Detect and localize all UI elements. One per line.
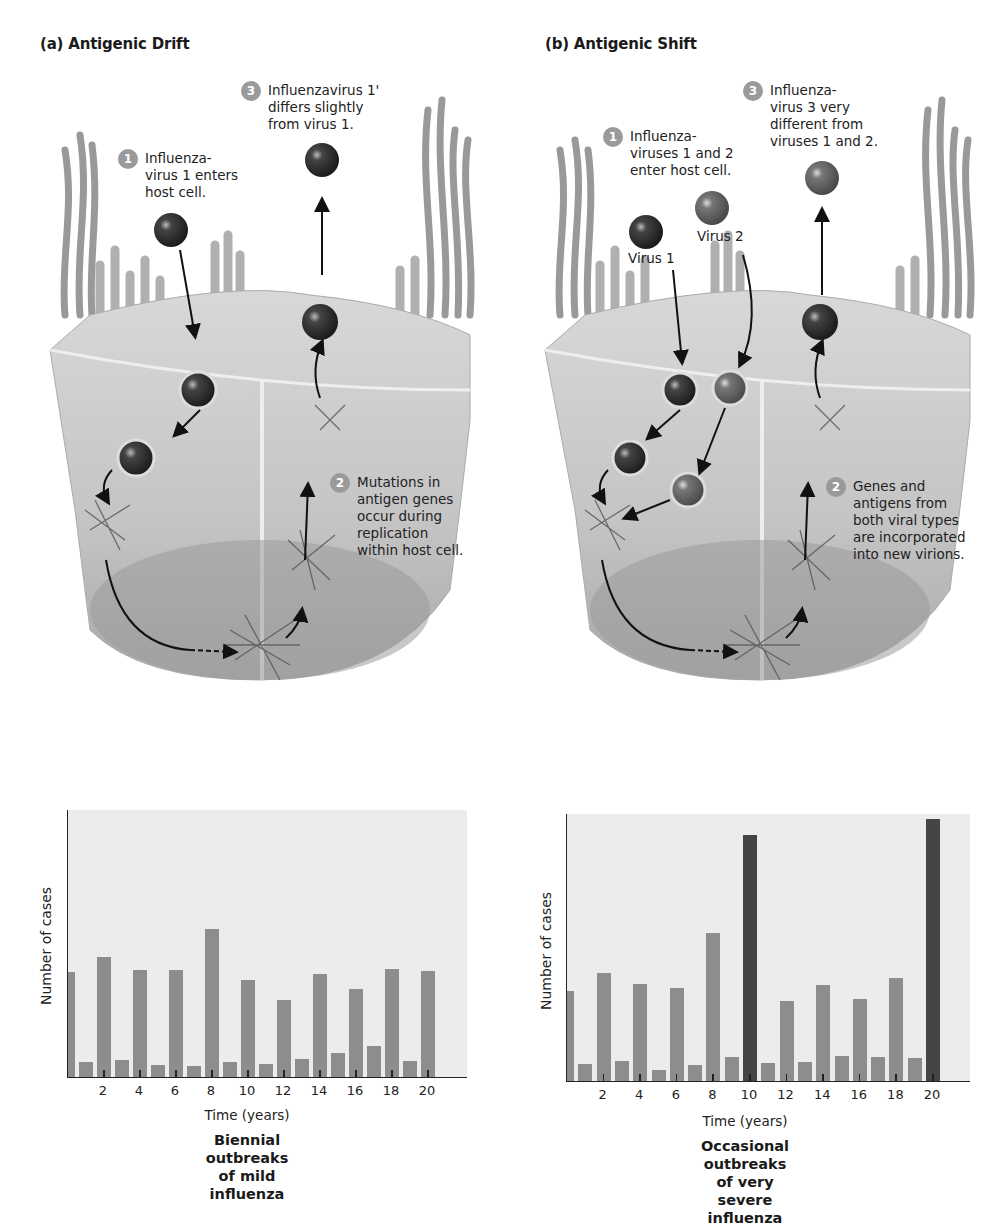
x-tick-label: 16 [851, 1087, 868, 1102]
bar-year-14 [313, 974, 327, 1077]
bar-year-6 [169, 970, 183, 1077]
bar-year-1 [79, 1062, 93, 1077]
x-tick-label: 2 [598, 1087, 606, 1102]
chart-caption: Occasional outbreaks of very severe infl… [701, 1137, 789, 1227]
x-tick [822, 1074, 824, 1081]
x-tick-label: 2 [99, 1083, 107, 1098]
bar-year-9 [725, 1057, 739, 1081]
step-a-3: 3 Influenzavirus 1' differs slightly fro… [268, 82, 379, 133]
x-tick-label: 10 [239, 1083, 256, 1098]
bar-year-10 [743, 835, 757, 1081]
x-tick [139, 1070, 141, 1077]
x-tick [712, 1074, 714, 1081]
bar-year-11 [259, 1064, 273, 1077]
plot-area [566, 814, 970, 1082]
bar-year-8 [205, 929, 219, 1077]
bar-year-18 [385, 969, 399, 1077]
x-tick [283, 1070, 285, 1077]
x-tick [427, 1070, 429, 1077]
x-tick-label: 6 [672, 1087, 680, 1102]
bar-year-16 [349, 989, 363, 1077]
bar-year-5 [652, 1070, 666, 1081]
panel-a-title: (a) Antigenic Drift [40, 35, 189, 53]
bar-year-15 [331, 1053, 345, 1077]
x-axis-label: Time (years) [204, 1107, 289, 1123]
virus-2-label: Virus 2 [697, 228, 744, 244]
bar-year-17 [367, 1046, 381, 1077]
bar-year-6 [670, 988, 684, 1081]
bar-year-13 [295, 1059, 309, 1077]
x-tick [247, 1070, 249, 1077]
step-b-2: 2 Genes and antigens from both viral typ… [853, 478, 965, 563]
x-tick [895, 1074, 897, 1081]
x-tick [391, 1070, 393, 1077]
bar-year-19 [403, 1061, 417, 1077]
x-tick-label: 16 [347, 1083, 364, 1098]
x-tick-label: 20 [924, 1087, 941, 1102]
x-axis-label: Time (years) [702, 1113, 787, 1129]
bar-year-7 [187, 1066, 201, 1077]
bar-year-0 [68, 972, 75, 1077]
bar-year-18 [889, 978, 903, 1081]
step-badge: 1 [118, 149, 138, 169]
y-axis-label: Number of cases [38, 887, 54, 1005]
x-tick-label: 6 [171, 1083, 179, 1098]
bar-year-3 [615, 1061, 629, 1081]
x-tick [603, 1074, 605, 1081]
bar-year-8 [706, 933, 720, 1081]
bar-year-14 [816, 985, 830, 1081]
bar-year-2 [597, 973, 611, 1081]
x-tick [639, 1074, 641, 1081]
bar-year-4 [133, 970, 147, 1077]
bar-year-4 [633, 984, 647, 1081]
x-tick [319, 1070, 321, 1077]
bar-year-0 [567, 991, 574, 1081]
antigenic-shift-cell-illustration [530, 90, 1000, 770]
bar-year-11 [761, 1063, 775, 1081]
step-badge: 2 [330, 473, 350, 493]
x-tick-label: 4 [135, 1083, 143, 1098]
plot-area [67, 810, 467, 1078]
panel-b-title: (b) Antigenic Shift [545, 35, 697, 53]
x-tick-label: 14 [311, 1083, 328, 1098]
y-axis-label: Number of cases [538, 892, 554, 1010]
bar-year-12 [277, 1000, 291, 1077]
bar-year-15 [835, 1056, 849, 1081]
virus-1-label: Virus 1 [628, 250, 675, 266]
bar-year-10 [241, 980, 255, 1077]
bar-year-1 [578, 1064, 592, 1081]
x-tick-label: 18 [383, 1083, 400, 1098]
bar-year-5 [151, 1065, 165, 1077]
step-a-1: 1 Influenza- virus 1 enters host cell. [145, 150, 238, 201]
step-b-3: 3 Influenza- virus 3 very different from… [770, 82, 878, 150]
x-tick-label: 4 [635, 1087, 643, 1102]
x-tick-label: 14 [814, 1087, 831, 1102]
x-tick [103, 1070, 105, 1077]
x-tick [859, 1074, 861, 1081]
bar-year-13 [798, 1062, 812, 1081]
step-badge: 3 [743, 81, 763, 101]
bar-year-3 [115, 1060, 129, 1077]
step-badge: 2 [826, 477, 846, 497]
x-tick-label: 18 [887, 1087, 904, 1102]
step-a-2: 2 Mutations in antigen genes occur durin… [357, 474, 463, 559]
antigenic-drift-cell-illustration [30, 90, 500, 770]
bar-year-20 [926, 819, 940, 1081]
x-tick [211, 1070, 213, 1077]
x-tick [932, 1074, 934, 1081]
step-b-1: 1 Influenza- viruses 1 and 2 enter host … [630, 128, 734, 179]
x-tick-label: 12 [275, 1083, 292, 1098]
bar-year-19 [908, 1058, 922, 1081]
x-tick [676, 1074, 678, 1081]
x-tick-label: 8 [708, 1087, 716, 1102]
bar-year-7 [688, 1065, 702, 1081]
chart-caption: Biennial outbreaks of mild influenza [206, 1131, 289, 1203]
bar-year-2 [97, 957, 111, 1077]
step-badge: 1 [603, 127, 623, 147]
x-tick-label: 10 [741, 1087, 758, 1102]
x-tick [749, 1074, 751, 1081]
x-tick-label: 20 [419, 1083, 436, 1098]
x-tick-label: 8 [207, 1083, 215, 1098]
x-tick-label: 12 [777, 1087, 794, 1102]
bar-year-9 [223, 1062, 237, 1077]
